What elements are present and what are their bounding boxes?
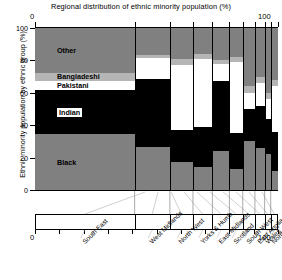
mosaic-segment[interactable]	[135, 55, 170, 58]
mosaic-segment[interactable]	[35, 134, 135, 190]
mosaic-column[interactable]	[243, 28, 255, 190]
top-tick	[170, 22, 171, 27]
y-tick-label: 60	[0, 89, 28, 98]
top-axis-min-label: 0	[30, 12, 34, 21]
mosaic-segment[interactable]	[229, 62, 242, 133]
mosaic-segment[interactable]	[212, 151, 229, 190]
mosaic-segment[interactable]	[193, 167, 212, 190]
mosaic-segment[interactable]	[170, 130, 193, 162]
mosaic-segment[interactable]	[135, 79, 170, 147]
mosaic-segment[interactable]	[255, 106, 265, 148]
mosaic-segment[interactable]	[212, 28, 229, 60]
mosaic-segment[interactable]	[243, 93, 255, 109]
mosaic-segment[interactable]	[170, 28, 193, 59]
mosaic-column[interactable]	[193, 28, 212, 190]
column-divider	[255, 28, 256, 190]
column-divider	[243, 28, 244, 190]
segment-label-indian: Indian	[57, 108, 82, 117]
y-tick-label: 20	[0, 154, 28, 163]
mosaic-segment[interactable]	[271, 86, 278, 131]
mosaic-segment[interactable]	[193, 28, 212, 54]
mosaic-segment[interactable]	[193, 127, 212, 168]
column-divider	[193, 28, 194, 190]
column-divider	[135, 28, 136, 190]
mosaic-segment[interactable]	[243, 109, 255, 141]
bottom-tick	[35, 230, 36, 234]
bottom-tick	[108, 230, 109, 234]
mosaic-column[interactable]	[212, 28, 229, 190]
mosaic-segment[interactable]	[271, 132, 278, 171]
bottom-tick	[84, 230, 85, 234]
mosaic-column[interactable]	[170, 28, 193, 190]
y-tick-label: 40	[0, 121, 28, 130]
column-divider	[229, 28, 230, 190]
mosaic-segment[interactable]	[170, 162, 193, 190]
y-tick-label: 100	[0, 24, 28, 33]
column-divider	[212, 28, 213, 190]
mosaic-segment[interactable]	[212, 64, 229, 82]
bottom-tick	[59, 230, 60, 234]
top-tick	[271, 22, 272, 27]
y-tick-label: 80	[0, 56, 28, 65]
mosaic-segment[interactable]	[229, 28, 242, 57]
mosaic-segment[interactable]	[193, 59, 212, 127]
y-tick	[30, 190, 35, 191]
column-divider	[170, 28, 171, 190]
mosaic-segment[interactable]	[135, 28, 170, 55]
mosaic-segment[interactable]	[271, 80, 278, 86]
top-tick	[278, 22, 279, 27]
mosaic-segment[interactable]	[135, 58, 170, 79]
chart-title: Regional distribution of ethnic minority…	[0, 2, 282, 11]
mosaic-column[interactable]	[255, 28, 265, 190]
mosaic-segment[interactable]	[243, 28, 255, 86]
mosaic-segment[interactable]	[229, 133, 242, 169]
top-tick	[229, 22, 230, 27]
segment-label-other: Other	[57, 46, 76, 55]
top-tick	[265, 22, 266, 27]
top-tick	[193, 22, 194, 27]
mosaic-segment[interactable]	[212, 60, 229, 63]
column-divider	[265, 28, 266, 190]
bottom-axis-min-label: 0	[30, 233, 34, 242]
mosaic-segment[interactable]	[229, 57, 242, 62]
mosaic-segment[interactable]	[243, 141, 255, 190]
top-tick	[135, 22, 136, 27]
mosaic-segment[interactable]	[229, 169, 242, 190]
mosaic-segment[interactable]	[35, 90, 135, 134]
mosaic-segment[interactable]	[255, 77, 265, 83]
plot-bottom-border	[35, 190, 278, 191]
mosaic-segment[interactable]	[135, 147, 170, 190]
top-tick	[243, 22, 244, 27]
y-axis-label: Ethnic minority population by ethnic gro…	[18, 15, 27, 195]
mosaic-column[interactable]	[35, 28, 135, 190]
mosaic-segment[interactable]	[255, 148, 265, 190]
top-tick	[255, 22, 256, 27]
segment-label-pakistani: Pakistani	[57, 81, 89, 90]
mosaic-segment[interactable]	[170, 59, 193, 65]
chart-figure: Regional distribution of ethnic minority…	[0, 0, 282, 280]
top-axis-max-label: 100	[258, 12, 271, 21]
top-tick	[35, 22, 36, 27]
mosaic-segment[interactable]	[170, 65, 193, 130]
mosaic-segment[interactable]	[255, 28, 265, 77]
mosaic-segment[interactable]	[271, 171, 278, 190]
mosaic-segment[interactable]	[243, 86, 255, 92]
mosaic-column[interactable]	[135, 28, 170, 190]
width-bar-segment[interactable]	[36, 215, 136, 229]
mosaic-segment[interactable]	[212, 81, 229, 151]
mosaic-column[interactable]	[271, 28, 278, 190]
mosaic-segment[interactable]	[35, 28, 135, 73]
mosaic-segment[interactable]	[255, 83, 265, 106]
column-divider	[271, 28, 272, 190]
y-tick-label: 0	[0, 186, 28, 195]
mosaic-column[interactable]	[229, 28, 242, 190]
segment-label-bangladeshi: Bangladeshi	[57, 72, 100, 81]
segment-label-black: Black	[57, 158, 76, 167]
bottom-tick	[132, 230, 133, 234]
top-tick	[212, 22, 213, 27]
mosaic-segment[interactable]	[271, 28, 278, 80]
mosaic-segment[interactable]	[193, 54, 212, 59]
